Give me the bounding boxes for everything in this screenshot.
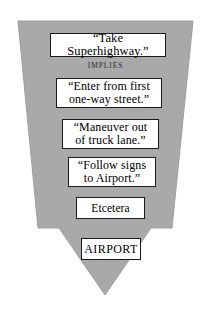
step-box-take-superhighway: “Take Superhighway.” [50,33,166,57]
step-box-enter-from-first-one-way-street: “Enter from first one-way street.” [56,78,162,108]
step-box-airport: AIRPORT [81,238,141,260]
step-box-maneuver-out-of-truck-lane: “Maneuver out of truck lane.” [62,119,159,149]
step-box-etcetera: Etcetera [76,197,145,219]
implies-label: IMPLIES [0,61,211,70]
arrow-flow-diagram: “Take Superhighway.” IMPLIES “Enter from… [0,0,211,311]
step-box-follow-signs-to-airport: “Follow signs to Airport.” [68,157,156,187]
